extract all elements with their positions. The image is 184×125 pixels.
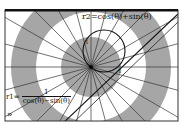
r1-denominator: cos(θ)−sin(θ) bbox=[22, 96, 71, 105]
r2-equation-label[interactable]: r2=cos(θ)+sin(θ) bbox=[82, 12, 152, 21]
r1-fraction: 1 cos(θ)−sin(θ) bbox=[22, 88, 71, 105]
r1-numerator: 1 bbox=[44, 88, 48, 96]
origin-point bbox=[89, 65, 93, 69]
x-axis-tick-label: 1 bbox=[118, 67, 122, 74]
expand-entry-line-button[interactable]: » bbox=[7, 109, 13, 119]
y-axis-tick-label: 1 bbox=[85, 38, 89, 45]
r1-prefix: r1= bbox=[6, 93, 20, 101]
r1-equation-label[interactable]: r1= 1 cos(θ)−sin(θ) bbox=[6, 88, 71, 105]
